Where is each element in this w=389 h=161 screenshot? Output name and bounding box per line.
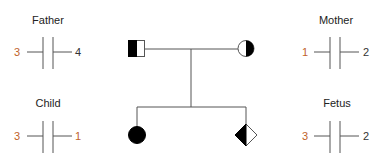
child-allele-left: 3 (14, 130, 20, 142)
child-label: Child (35, 97, 60, 109)
pedigree-lines (137, 49, 246, 127)
fetus-diamond-symbol (235, 124, 257, 146)
pedigree-diagram: Father 3 4 Mother 1 2 Child 3 1 Fetus 3 … (0, 0, 389, 161)
mother-allele-left: 1 (302, 46, 308, 58)
child-genotype-panel: Child 3 1 (14, 97, 81, 153)
fetus-genotype-panel: Fetus 3 2 (302, 97, 369, 153)
mother-circle-symbol (238, 41, 254, 57)
mother-allele-right: 2 (363, 46, 369, 58)
father-allele-left: 3 (14, 46, 20, 58)
child-allele-right: 1 (75, 130, 81, 142)
father-label: Father (32, 14, 64, 26)
child-circle-symbol (129, 127, 146, 144)
father-genotype-panel: Father 3 4 (14, 14, 81, 69)
father-allele-right: 4 (75, 46, 81, 58)
mother-label: Mother (319, 14, 354, 26)
father-square-symbol (129, 41, 145, 57)
mother-genotype-panel: Mother 1 2 (302, 14, 369, 69)
fetus-label: Fetus (323, 97, 351, 109)
fetus-allele-left: 3 (302, 130, 308, 142)
fetus-allele-right: 2 (363, 130, 369, 142)
